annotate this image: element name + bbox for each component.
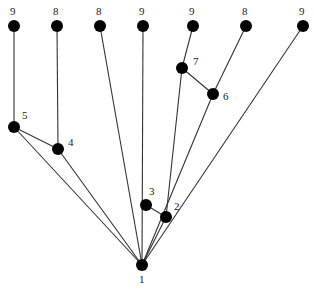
node-n2 [160, 211, 172, 223]
node-label-t4: 9 [139, 5, 145, 17]
node-t6 [240, 20, 252, 32]
edge-n2-n1 [142, 217, 166, 265]
edge-t2-n4 [57, 26, 58, 149]
edge-t3-n1 [100, 26, 142, 265]
edge-n5-n1 [14, 127, 142, 265]
node-label-n2: 2 [174, 200, 180, 212]
node-n3 [140, 199, 152, 211]
node-n1 [136, 259, 148, 271]
node-n6 [207, 88, 219, 100]
node-label-n5: 5 [22, 109, 28, 121]
node-n5 [8, 121, 20, 133]
node-label-n7: 7 [193, 55, 199, 67]
node-t4 [137, 20, 149, 32]
node-label-n1: 1 [139, 273, 145, 285]
node-t7 [297, 20, 309, 32]
node-label-t5: 9 [189, 5, 195, 17]
node-label-t2: 8 [53, 5, 59, 17]
edge-t5-n7 [182, 26, 193, 68]
edge-n7-n6 [182, 68, 213, 94]
node-label-t7: 9 [299, 5, 305, 17]
node-label-n4: 4 [68, 136, 74, 148]
edge-n5-n4 [14, 127, 58, 149]
node-label-t6: 8 [242, 5, 248, 17]
node-t5 [187, 20, 199, 32]
node-t3 [94, 20, 106, 32]
node-n7 [176, 62, 188, 74]
node-label-n3: 3 [149, 185, 155, 197]
node-label-t3: 8 [96, 5, 102, 17]
node-t1 [8, 20, 20, 32]
edge-n6-n1 [142, 94, 213, 265]
node-n4 [52, 143, 64, 155]
edge-n4-n1 [58, 149, 142, 265]
node-label-t1: 9 [10, 5, 16, 17]
edge-t7-n1 [142, 26, 303, 265]
node-label-n6: 6 [223, 90, 229, 102]
edge-t4-n1 [142, 26, 143, 265]
node-t2 [51, 20, 63, 32]
edge-t6-n6 [213, 26, 246, 94]
tree-diagram: 98899895476321 [0, 0, 314, 305]
nodes-group [8, 20, 309, 271]
edge-n7-n2 [166, 68, 182, 217]
